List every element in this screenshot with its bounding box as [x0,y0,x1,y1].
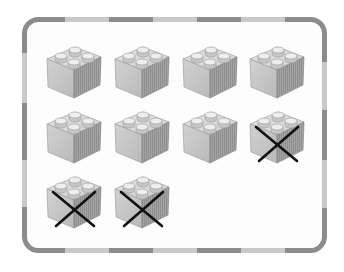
lego-brick-icon [247,42,307,100]
lego-brick-icon [112,42,172,100]
brick-2 [112,42,172,100]
lego-brick-icon [180,42,240,100]
lego-brick-icon [44,42,104,100]
brick-5 [44,107,104,165]
lego-brick-crossed-icon [112,172,172,230]
brick-9-crossed [44,172,104,230]
lego-brick-crossed-icon [247,107,307,165]
brick-1 [44,42,104,100]
brick-3 [180,42,240,100]
lego-brick-icon [180,107,240,165]
brick-8-crossed [247,107,307,165]
brick-4 [247,42,307,100]
brick-7 [180,107,240,165]
lego-brick-icon [112,107,172,165]
brick-6 [112,107,172,165]
brick-10-crossed [112,172,172,230]
lego-brick-icon [44,107,104,165]
lego-brick-crossed-icon [44,172,104,230]
